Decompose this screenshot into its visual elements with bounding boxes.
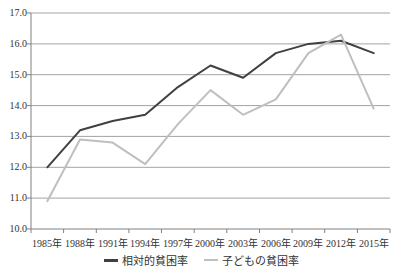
series-line-1 — [47, 35, 373, 202]
relative-poverty-line-swatch — [104, 259, 118, 262]
legend: 相対的貧困率 子どもの貧困率 — [0, 252, 402, 268]
plot-area — [0, 0, 402, 268]
series-line-0 — [47, 41, 373, 168]
y-axis-tick-label: 17.0 — [0, 7, 27, 19]
y-axis-tick-label: 14.0 — [0, 100, 27, 112]
legend-label-relative-poverty-rate: 相対的貧困率 — [122, 252, 188, 268]
y-axis-tick-label: 12.0 — [0, 161, 27, 173]
x-axis-tick-label: 2015年 — [354, 238, 394, 250]
y-axis-tick-label: 13.0 — [0, 130, 27, 142]
poverty-rate-line-chart: 17.016.015.014.013.012.011.010.0 1985年19… — [0, 0, 402, 268]
child-poverty-line-swatch — [204, 259, 218, 261]
y-axis-tick-label: 10.0 — [0, 223, 27, 235]
legend-item-child-poverty-rate: 子どもの貧困率 — [204, 252, 299, 268]
y-axis-tick-label: 15.0 — [0, 69, 27, 81]
y-axis-tick-label: 16.0 — [0, 38, 27, 50]
y-axis-tick-label: 11.0 — [0, 192, 27, 204]
legend-label-child-poverty-rate: 子どもの貧困率 — [222, 252, 299, 268]
legend-item-relative-poverty-rate: 相対的貧困率 — [104, 252, 188, 268]
